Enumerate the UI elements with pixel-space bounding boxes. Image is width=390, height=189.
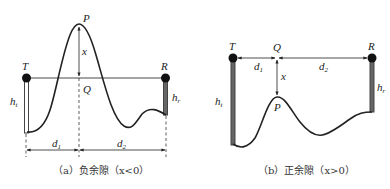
label-d2-a: d2 bbox=[117, 137, 127, 151]
label-r-b: R bbox=[367, 40, 375, 52]
label-ht-a: ht bbox=[10, 95, 19, 109]
label-hr-b: hr bbox=[377, 81, 386, 95]
figure-b: T Q R d1 d2 x P ht hr （b）正余隙（x>0） bbox=[215, 40, 386, 176]
label-ht-b: ht bbox=[215, 95, 224, 109]
label-p-a: P bbox=[82, 12, 90, 24]
transmitter-mast-b bbox=[231, 59, 235, 145]
label-q-b: Q bbox=[273, 41, 281, 53]
label-hr-a: hr bbox=[172, 91, 181, 105]
label-x-a: x bbox=[81, 45, 87, 57]
receiver-node-b bbox=[368, 54, 377, 63]
label-d2-b: d2 bbox=[319, 60, 329, 74]
label-t-b: T bbox=[229, 40, 236, 52]
caption-a: （a）负余隙（x<0） bbox=[53, 164, 149, 176]
label-r-a: R bbox=[160, 60, 168, 72]
caption-b: （b）正余隙（x>0） bbox=[258, 164, 355, 176]
diagram-canvas: P x T R Q ht hr d1 d2 （a）负余隙（x<0） T Q R bbox=[0, 0, 390, 189]
transmitter-node-b bbox=[229, 54, 238, 63]
label-x-b: x bbox=[280, 70, 286, 82]
receiver-mast-a bbox=[164, 79, 168, 115]
label-d1-a: d1 bbox=[52, 137, 61, 151]
label-t-a: T bbox=[22, 60, 29, 72]
terrain-profile-b bbox=[233, 97, 372, 147]
label-d1-b: d1 bbox=[254, 60, 263, 74]
label-q-a: Q bbox=[83, 83, 91, 95]
receiver-node-a bbox=[161, 74, 170, 83]
receiver-mast-b bbox=[370, 59, 374, 112]
transmitter-mast-a bbox=[25, 79, 29, 133]
figure-a: P x T R Q ht hr d1 d2 （a）负余隙（x<0） bbox=[10, 12, 181, 176]
transmitter-node-a bbox=[22, 74, 31, 83]
label-p-b: P bbox=[273, 101, 281, 113]
